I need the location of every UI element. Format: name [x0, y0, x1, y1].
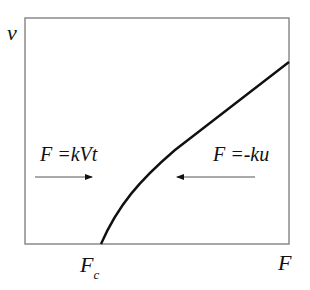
- critical-force-main: F: [80, 252, 93, 277]
- x-axis-label: F: [278, 250, 291, 276]
- critical-force-subscript: c: [93, 267, 99, 282]
- left-equation: F =kVt: [40, 143, 97, 166]
- plot-frame: [25, 18, 289, 244]
- right-equation: F =-ku: [213, 143, 269, 166]
- y-axis-label: v: [7, 20, 17, 46]
- critical-force-label: Fc: [80, 252, 99, 278]
